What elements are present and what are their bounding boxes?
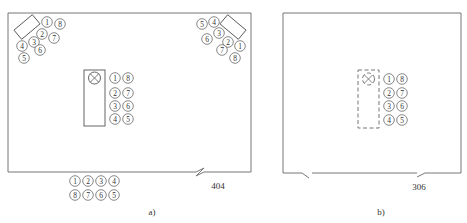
- lamp-icon-dashed: [363, 73, 375, 85]
- circled-number: 7: [83, 190, 94, 201]
- svg-text:2: 2: [387, 89, 391, 98]
- svg-text:7: 7: [400, 89, 404, 98]
- circled-number: 6: [123, 101, 134, 112]
- circled-number: 2: [384, 88, 395, 99]
- reference-label-404: 404: [211, 181, 225, 191]
- svg-text:8: 8: [73, 191, 77, 200]
- svg-text:4: 4: [212, 18, 216, 27]
- number-group-bottom: 12348765: [70, 176, 120, 201]
- break-mark-left: [302, 173, 309, 178]
- number-group-center: 18273645: [110, 73, 134, 125]
- svg-text:5: 5: [22, 54, 26, 63]
- svg-text:3: 3: [387, 102, 391, 111]
- circled-number: 5: [109, 190, 120, 201]
- svg-text:1: 1: [238, 42, 242, 51]
- circled-number: 8: [397, 74, 408, 85]
- svg-text:8: 8: [58, 20, 62, 29]
- lamp-icon: [89, 72, 101, 84]
- svg-text:2: 2: [226, 38, 230, 47]
- circled-number: 4: [384, 115, 395, 126]
- circled-number: 3: [96, 176, 107, 187]
- circled-number: 6: [202, 34, 213, 45]
- circled-number: 3: [384, 101, 395, 112]
- svg-text:6: 6: [205, 35, 209, 44]
- svg-text:5: 5: [112, 191, 116, 200]
- circled-number: 7: [217, 45, 228, 56]
- device-top-left: [14, 15, 40, 40]
- leader-line: [196, 168, 204, 176]
- circled-number: 1: [110, 73, 121, 84]
- caption-b: b): [377, 207, 385, 217]
- svg-text:5: 5: [200, 20, 204, 29]
- svg-text:2: 2: [86, 177, 90, 186]
- circled-number: 1: [384, 74, 395, 85]
- svg-text:7: 7: [220, 46, 224, 55]
- svg-text:4: 4: [113, 115, 117, 124]
- svg-text:8: 8: [126, 74, 130, 83]
- circled-number: 2: [37, 29, 48, 40]
- panel-a: 404 18273465 54362178 18273645 12348765 …: [8, 13, 251, 217]
- svg-text:8: 8: [400, 75, 404, 84]
- svg-text:1: 1: [73, 177, 77, 186]
- circled-number: 1: [70, 176, 81, 187]
- svg-text:7: 7: [126, 89, 130, 98]
- circled-number: 4: [110, 114, 121, 125]
- circled-number: 3: [214, 28, 225, 39]
- circled-number: 6: [96, 190, 107, 201]
- circled-number: 4: [17, 41, 28, 52]
- circled-number: 8: [123, 73, 134, 84]
- svg-text:1: 1: [45, 18, 49, 27]
- circled-number: 5: [123, 114, 134, 125]
- circled-number: 1: [42, 17, 53, 28]
- circled-number: 8: [70, 190, 81, 201]
- svg-text:2: 2: [113, 89, 117, 98]
- svg-text:4: 4: [20, 42, 24, 51]
- svg-text:1: 1: [387, 75, 391, 84]
- number-group-center-b: 18273645: [384, 74, 408, 126]
- circled-number: 8: [55, 19, 66, 30]
- circled-number: 2: [83, 176, 94, 187]
- circled-number: 5: [197, 19, 208, 30]
- circled-number: 7: [49, 33, 60, 44]
- svg-text:6: 6: [38, 46, 42, 55]
- circled-number: 5: [397, 115, 408, 126]
- circled-number: 4: [109, 176, 120, 187]
- circled-number: 2: [110, 88, 121, 99]
- svg-text:8: 8: [233, 54, 237, 63]
- svg-text:4: 4: [387, 116, 391, 125]
- svg-text:7: 7: [52, 34, 56, 43]
- circled-number: 8: [230, 53, 241, 64]
- diagram-canvas: 404 18273465 54362178 18273645 12348765 …: [0, 0, 467, 223]
- circled-number: 6: [35, 45, 46, 56]
- panel-b-frame: [283, 13, 461, 173]
- caption-a: a): [149, 207, 156, 217]
- circled-number: 6: [397, 101, 408, 112]
- svg-text:7: 7: [86, 191, 90, 200]
- svg-text:5: 5: [400, 116, 404, 125]
- svg-text:1: 1: [113, 74, 117, 83]
- circled-number: 7: [123, 88, 134, 99]
- circled-number: 4: [209, 17, 220, 28]
- svg-text:5: 5: [126, 115, 130, 124]
- circled-number: 3: [110, 101, 121, 112]
- circled-number: 5: [19, 53, 30, 64]
- svg-text:3: 3: [32, 38, 36, 47]
- circled-number: 7: [397, 88, 408, 99]
- svg-text:6: 6: [400, 102, 404, 111]
- svg-text:6: 6: [126, 102, 130, 111]
- svg-text:3: 3: [113, 102, 117, 111]
- leader-line-b: [417, 173, 425, 177]
- svg-text:3: 3: [217, 29, 221, 38]
- svg-text:3: 3: [99, 177, 103, 186]
- circled-number: 1: [235, 41, 246, 52]
- svg-text:4: 4: [112, 177, 116, 186]
- reference-label-306: 306: [412, 182, 426, 192]
- svg-text:6: 6: [99, 191, 103, 200]
- panel-b: 306 18273645 b): [283, 13, 461, 217]
- svg-text:2: 2: [40, 30, 44, 39]
